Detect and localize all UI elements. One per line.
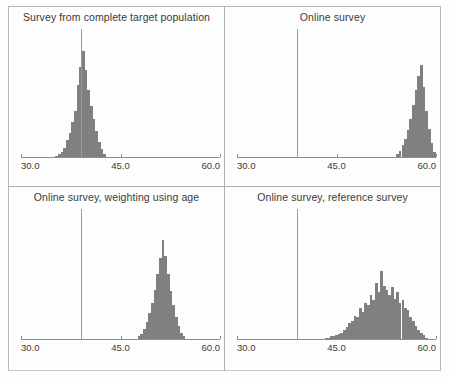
plot-area — [21, 29, 220, 157]
histogram-bars — [21, 209, 220, 339]
x-tick-label: 45.0 — [327, 342, 346, 353]
x-tick — [436, 154, 437, 157]
x-tick-label: 30.0 — [237, 342, 256, 353]
panel-title: Online survey, weighting using age — [9, 191, 224, 203]
x-tick — [21, 336, 22, 339]
x-tick-label: 45.0 — [111, 342, 130, 353]
x-tick — [121, 154, 122, 157]
histogram-bars — [237, 29, 436, 157]
x-tick-label: 60.0 — [202, 342, 221, 353]
x-axis: 30.0 45.0 60.0 — [237, 157, 436, 158]
x-axis: 30.0 45.0 60.0 — [237, 339, 436, 340]
reference-line — [297, 209, 298, 339]
x-tick — [237, 336, 238, 339]
x-tick-label: 30.0 — [237, 160, 256, 171]
x-tick-label: 60.0 — [202, 160, 221, 171]
x-tick-label: 60.0 — [418, 160, 437, 171]
plot-area — [237, 29, 436, 157]
panel-title: Online survey — [225, 11, 440, 23]
panel-online-survey: Online survey 30.0 45.0 60.0 — [225, 7, 440, 186]
panel-title: Survey from complete target population — [9, 11, 224, 23]
x-tick — [337, 336, 338, 339]
reference-line — [297, 29, 298, 157]
panel-online-survey-weighting-using-age: Online survey, weighting using age 30.0 … — [9, 187, 224, 370]
plot-area — [237, 209, 436, 339]
panel-survey-complete-target-population: Survey from complete target population 3… — [9, 7, 224, 186]
panel-online-survey-reference-survey: Online survey, reference survey 30.0 45.… — [225, 187, 440, 370]
x-tick — [220, 336, 221, 339]
panel-title: Online survey, reference survey — [225, 191, 440, 203]
plot-area — [21, 209, 220, 339]
x-tick — [21, 154, 22, 157]
x-tick — [237, 154, 238, 157]
x-tick — [436, 336, 437, 339]
x-axis: 30.0 45.0 60.0 — [21, 157, 220, 158]
reference-line — [81, 209, 82, 339]
figure-border-right — [440, 6, 441, 371]
histogram-bars — [21, 29, 220, 157]
x-tick-label: 45.0 — [327, 160, 346, 171]
x-tick-label: 30.0 — [21, 160, 40, 171]
histogram-figure: Survey from complete target population 3… — [0, 0, 449, 377]
x-tick-label: 60.0 — [418, 342, 437, 353]
x-axis: 30.0 45.0 60.0 — [21, 339, 220, 340]
x-tick — [121, 336, 122, 339]
x-tick — [337, 154, 338, 157]
histogram-bars — [237, 209, 436, 339]
reference-line — [81, 29, 82, 157]
x-tick-label: 30.0 — [21, 342, 40, 353]
x-tick — [220, 154, 221, 157]
x-tick-label: 45.0 — [111, 160, 130, 171]
